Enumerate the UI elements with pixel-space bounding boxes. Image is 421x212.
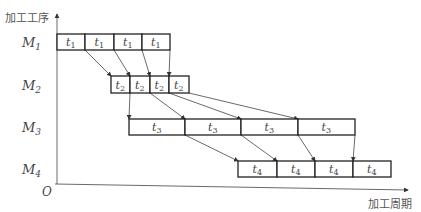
dependency-arrow	[185, 135, 238, 161]
dependency-arrows	[85, 50, 355, 161]
task-box: t2	[150, 76, 169, 93]
flow-shop-diagram: 加工工序 加工周期 O M1t1t1t1t1M2t2t2t2t2M3t3t3t3…	[0, 0, 421, 212]
task-box: t4	[315, 161, 353, 177]
dependency-arrow	[169, 50, 170, 76]
machine-row-3: M3t3t3t3t3	[21, 119, 355, 137]
origin-label: O	[42, 185, 52, 199]
dependency-arrow	[353, 135, 355, 161]
machine-row-2: M2t2t2t2t2	[21, 76, 189, 95]
task-box: t2	[169, 76, 189, 93]
dependency-arrow	[85, 50, 111, 76]
task-box: t3	[298, 119, 355, 135]
task-box: t3	[129, 119, 185, 135]
y-axis-label: 加工工序	[5, 11, 49, 25]
task-box: t3	[185, 119, 241, 135]
task-box: t4	[238, 161, 277, 177]
task-box: t2	[130, 76, 150, 93]
task-box: t4	[353, 161, 391, 177]
machine-label: M4	[21, 162, 41, 179]
machine-row-1: M1t1t1t1t1	[21, 34, 170, 52]
task-box: t1	[114, 34, 142, 50]
dependency-arrow	[142, 50, 150, 76]
task-box: t2	[111, 76, 130, 93]
dependency-arrow	[241, 135, 277, 161]
dependency-arrow	[298, 135, 315, 161]
task-box: t1	[142, 34, 170, 50]
machine-label: M2	[21, 78, 41, 95]
dependency-arrow	[129, 93, 130, 119]
task-box: t4	[277, 161, 315, 177]
x-axis-label: 加工周期	[368, 198, 412, 211]
task-box: t1	[85, 34, 114, 50]
x-axis	[55, 184, 408, 190]
machine-label: M1	[21, 35, 41, 52]
machine-label: M3	[21, 120, 41, 137]
task-box: t1	[57, 34, 85, 50]
task-box: t3	[241, 119, 298, 135]
dependency-arrow	[114, 50, 130, 76]
machine-row-4: M4t4t4t4t4	[21, 161, 391, 179]
